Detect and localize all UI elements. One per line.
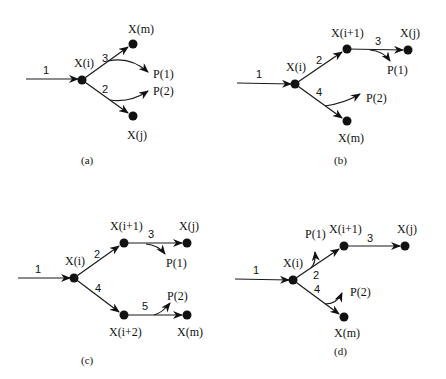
edge-2-label: 2	[316, 54, 322, 66]
product-1-label: P(1)	[387, 63, 408, 77]
node-xj	[183, 239, 192, 248]
edge-3-label: 3	[375, 35, 381, 47]
node-xi1-label: X(i+1)	[331, 26, 364, 40]
edge-4-label: 4	[95, 282, 101, 294]
edge-2-label: 2	[102, 83, 108, 95]
edge-1-arrow	[237, 83, 291, 84]
edge-5-label: 5	[142, 300, 148, 312]
product-2-arrow	[154, 303, 170, 315]
product-1-label: P(1)	[153, 67, 174, 81]
product-1-label: P(1)	[166, 256, 187, 270]
node-xm	[183, 311, 192, 320]
edge-1-label: 1	[43, 64, 49, 76]
product-2-label: P(2)	[350, 285, 371, 299]
panel-c-caption: (c)	[81, 354, 94, 367]
product-1-arrow	[370, 50, 390, 61]
edge-3-label: 3	[367, 232, 373, 244]
node-xm	[343, 117, 352, 126]
panel-c: 1 X(i) 2 X(i+1) 3 X(j) P(1) 4 X(i+2) 5 X…	[18, 219, 203, 367]
node-xi-label: X(i)	[286, 60, 306, 74]
product-2-arrow	[325, 293, 342, 304]
node-xi1-label: X(i+1)	[110, 219, 143, 233]
node-xm	[129, 40, 138, 49]
product-1-arrow	[108, 60, 148, 72]
node-xm-label: X(m)	[338, 131, 364, 145]
edge-4-label: 4	[314, 283, 320, 295]
product-2-label: P(2)	[366, 91, 387, 105]
panel-b-caption: (b)	[334, 154, 347, 167]
node-xm-label: X(m)	[334, 326, 360, 340]
node-xj	[401, 242, 410, 251]
edge-3-arrow	[347, 49, 403, 50]
edge-1-label: 1	[253, 264, 259, 276]
node-xj-label: X(j)	[179, 219, 199, 233]
node-xi-label: X(i)	[283, 256, 303, 270]
product-2-arrow	[325, 94, 360, 106]
edge-3-label: 3	[102, 52, 108, 64]
product-2-label: P(2)	[167, 289, 188, 303]
reaction-pathway-diagram: 1 X(i) 3 X(m) P(1) 2 X(j) P(2) (a) 1 X(i…	[0, 0, 446, 379]
product-2-arrow	[110, 91, 148, 101]
panel-a-caption: (a)	[81, 154, 94, 167]
panel-d-caption: (d)	[334, 345, 347, 358]
edge-4-label: 4	[316, 86, 322, 98]
panel-b: 1 X(i) 2 X(i+1) 3 X(j) P(1) 4 X(m) P(2) …	[237, 26, 420, 167]
product-1-label: P(1)	[305, 227, 326, 241]
node-xm-label: X(m)	[128, 22, 154, 36]
node-xj-label: X(j)	[397, 222, 417, 236]
node-xj	[404, 46, 413, 55]
edge-3-label: 3	[148, 228, 154, 240]
panel-a: 1 X(i) 3 X(m) P(1) 2 X(j) P(2) (a)	[26, 22, 174, 167]
edge-2-label: 2	[94, 248, 100, 260]
node-xm	[340, 313, 349, 322]
panel-d: 1 X(i) 2 X(i+1) P(1) 3 X(j) 4 X(m) P(2) …	[235, 222, 417, 358]
node-xi-label: X(i)	[65, 254, 85, 268]
node-xj	[129, 112, 138, 121]
node-xj-label: X(j)	[127, 128, 147, 142]
node-xi1-label: X(i+1)	[329, 222, 362, 236]
node-xi-label: X(i)	[74, 56, 94, 70]
edge-1-label: 1	[35, 263, 41, 275]
edge-2-label: 2	[313, 269, 319, 281]
edge-1-arrow	[235, 279, 289, 280]
product-1-arrow	[146, 244, 165, 254]
node-xi2-label: X(i+2)	[109, 325, 142, 339]
edge-1-label: 1	[256, 68, 262, 80]
node-xm-label: X(m)	[177, 325, 203, 339]
node-xj-label: X(j)	[400, 26, 420, 40]
product-2-label: P(2)	[153, 84, 174, 98]
